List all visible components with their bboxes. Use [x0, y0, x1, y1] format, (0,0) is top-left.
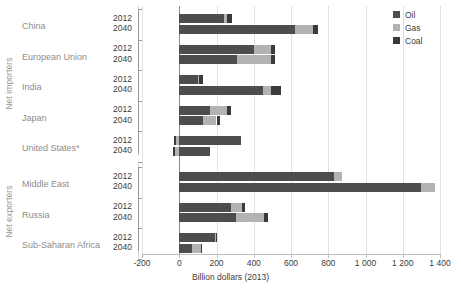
- region-label-united-states: United States*: [22, 143, 114, 153]
- x-tick-label-600: 600: [284, 258, 298, 268]
- region-label-russia: Russia: [22, 210, 114, 220]
- legend-label: Coal: [405, 36, 422, 46]
- year-label-2012: 2012: [113, 13, 132, 23]
- legend-swatch-oil-icon: [393, 11, 400, 18]
- legend: OilGasCoal: [393, 8, 422, 47]
- year-label-2040: 2040: [113, 23, 132, 33]
- bar-segment-oil: [179, 25, 294, 34]
- bar-segment-gas: [203, 116, 216, 125]
- bar-row: [142, 86, 440, 95]
- bar-segment-coal: [201, 244, 202, 253]
- bar-row: [142, 116, 440, 125]
- year-label-2040: 2040: [113, 54, 132, 64]
- bar-segment-coal: [264, 213, 268, 222]
- legend-item-gas[interactable]: Gas: [393, 21, 422, 34]
- bar-segment-oil: [179, 172, 334, 181]
- bar-segment-oil: [179, 183, 421, 192]
- bar-segment-oil: [179, 233, 214, 242]
- bar-segment-oil: [179, 147, 210, 156]
- legend-label: Oil: [405, 10, 415, 20]
- region-label-japan: Japan: [22, 113, 114, 123]
- legend-item-oil[interactable]: Oil: [393, 8, 422, 21]
- bar-row: [142, 172, 440, 181]
- category-tick: [138, 162, 142, 163]
- legend-swatch-coal-icon: [393, 37, 400, 44]
- bar-segment-oil: [179, 75, 198, 84]
- x-tick-label-400: 400: [247, 258, 261, 268]
- group-axis-label-net-exporters: Net exporters: [4, 166, 14, 257]
- bar-row: [142, 106, 440, 115]
- bar-segment-coal: [227, 106, 232, 115]
- bar-segment-gas: [192, 244, 200, 253]
- gridline-1400: [440, 6, 441, 254]
- bar-row: [142, 183, 440, 192]
- category-axis-line: [138, 9, 139, 154]
- bar-segment-gas: [263, 86, 270, 95]
- x-tick-label-800: 800: [321, 258, 335, 268]
- bar-segment-gas: [295, 25, 314, 34]
- x-tick-label-0: 0: [177, 258, 182, 268]
- year-label-2040: 2040: [113, 115, 132, 125]
- bar-segment-gas: [176, 136, 179, 145]
- year-label-2012: 2012: [113, 201, 132, 211]
- bar-row: [142, 203, 440, 212]
- bar-segment-gas: [254, 45, 272, 54]
- bar-segment-gas: [236, 213, 264, 222]
- bar-segment-oil: [179, 203, 231, 212]
- region-label-european-union: European Union: [22, 52, 114, 62]
- region-label-middle-east: Middle East: [22, 179, 114, 189]
- legend-item-coal[interactable]: Coal: [393, 34, 422, 47]
- bar-segment-coal: [271, 55, 274, 64]
- bar-segment-coal: [313, 25, 318, 34]
- x-tick-label-1000: 1 000: [355, 258, 376, 268]
- x-tick-label--200: -200: [133, 258, 150, 268]
- bar-segment-oil: [179, 86, 263, 95]
- bar-row: [142, 147, 440, 156]
- bar-segment-oil: [179, 244, 192, 253]
- bar-row: [142, 213, 440, 222]
- group-axis-label-net-importers: Net importers: [4, 8, 14, 160]
- x-tick-label-200: 200: [209, 258, 223, 268]
- x-tick-label-1200: 1 200: [392, 258, 413, 268]
- bar-segment-oil: [179, 14, 224, 23]
- bar-segment-coal: [271, 86, 281, 95]
- year-label-2012: 2012: [113, 135, 132, 145]
- year-label-2040: 2040: [113, 212, 132, 222]
- year-label-2012: 2012: [113, 171, 132, 181]
- year-label-2040: 2040: [113, 145, 132, 155]
- bar-row: [142, 55, 440, 64]
- bar-segment-gas: [210, 106, 227, 115]
- region-label-sub-saharan-africa: Sub-Saharan Africa: [22, 240, 114, 250]
- year-label-2040: 2040: [113, 181, 132, 191]
- bar-segment-oil: [179, 136, 240, 145]
- x-axis-title: Billion dollars (2013): [0, 272, 461, 282]
- bar-segment-coal: [242, 203, 245, 212]
- bar-segment-oil: [179, 106, 210, 115]
- bar-row: [142, 75, 440, 84]
- region-label-india: India: [22, 82, 114, 92]
- bar-row: [142, 244, 440, 253]
- bar-segment-coal: [227, 14, 233, 23]
- year-label-2012: 2012: [113, 104, 132, 114]
- x-tick-label-1400: 1 400: [429, 258, 450, 268]
- bar-segment-coal: [199, 75, 202, 84]
- bar-segment-gas: [334, 172, 342, 181]
- legend-swatch-gas-icon: [393, 24, 400, 31]
- bar-segment-gas: [421, 183, 435, 192]
- bar-segment-coal: [174, 136, 176, 145]
- year-label-2012: 2012: [113, 232, 132, 242]
- category-axis-line: [138, 167, 139, 251]
- bar-segment-oil: [179, 45, 254, 54]
- region-label-china: China: [22, 21, 114, 31]
- bar-segment-coal: [271, 45, 275, 54]
- bar-segment-coal: [217, 116, 221, 125]
- bar-segment-oil: [179, 55, 237, 64]
- bar-segment-gas: [175, 147, 179, 156]
- year-label-2012: 2012: [113, 43, 132, 53]
- bar-segment-oil: [179, 213, 236, 222]
- bar-row: [142, 233, 440, 242]
- year-label-2040: 2040: [113, 242, 132, 252]
- bar-segment-oil: [179, 116, 203, 125]
- bar-segment-gas: [231, 203, 241, 212]
- chart-container: Net importers Net exporters ChinaEuropea…: [0, 0, 461, 289]
